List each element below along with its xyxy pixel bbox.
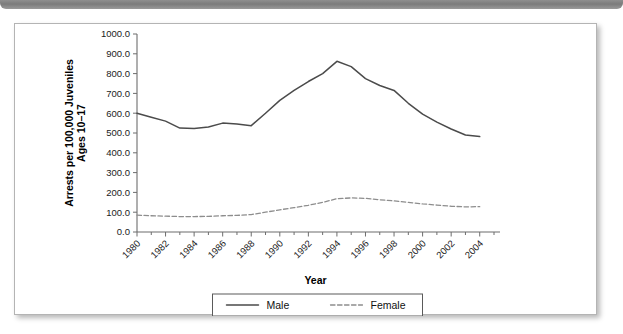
- x-axis-title: Year: [304, 274, 326, 286]
- data-series-group: [137, 61, 480, 216]
- y-tick-label: 1000.0: [101, 28, 130, 39]
- x-tick-label: 1986: [205, 238, 228, 261]
- y-tick-label: 300.0: [106, 167, 130, 178]
- y-tick-label: 900.0: [106, 48, 130, 59]
- x-tick-label: 2000: [405, 238, 428, 261]
- x-axis-ticks: 1980198219841986198819901992199419961998…: [120, 232, 494, 260]
- y-tick-label: 0.0: [117, 226, 130, 237]
- x-tick-label: 1996: [348, 238, 371, 261]
- y-axis-ticks: 0.0100.0200.0300.0400.0500.0600.0700.080…: [101, 28, 137, 237]
- y-tick-label: 100.0: [106, 207, 130, 218]
- y-tick-label: 200.0: [106, 187, 130, 198]
- x-tick-label: 1980: [120, 238, 143, 261]
- line-chart: Arrests per 100,000 Juveniles Ages 10–17…: [15, 24, 598, 316]
- y-tick-label: 800.0: [106, 68, 130, 79]
- y-axis-title-line-2: Ages 10–17: [75, 104, 87, 162]
- x-tick-label: 2002: [434, 238, 457, 261]
- x-tick-label: 1988: [234, 238, 257, 261]
- x-tick-label: 1998: [377, 238, 400, 261]
- y-tick-label: 400.0: [106, 147, 130, 158]
- x-tick-label: 2004: [462, 238, 485, 261]
- chart-container: Arrests per 100,000 Juveniles Ages 10–17…: [15, 24, 598, 316]
- x-tick-label: 1984: [177, 238, 200, 261]
- axis-lines: [137, 34, 500, 232]
- y-axis-title: Arrests per 100,000 Juveniles Ages 10–17: [63, 59, 87, 207]
- x-tick-label: 1982: [148, 238, 171, 261]
- x-tick-label: 1994: [320, 238, 343, 261]
- y-tick-label: 600.0: [106, 108, 130, 119]
- series-line-female: [137, 198, 480, 217]
- x-tick-label: 1992: [291, 238, 314, 261]
- y-tick-label: 500.0: [106, 127, 130, 138]
- y-axis-title-line-1: Arrests per 100,000 Juveniles: [63, 59, 75, 207]
- chart-legend: MaleFemale: [213, 294, 423, 316]
- decorative-top-bar: [0, 0, 623, 9]
- figure-panel: Arrests per 100,000 Juveniles Ages 10–17…: [14, 23, 597, 315]
- x-tick-label: 1990: [262, 238, 285, 261]
- y-tick-label: 700.0: [106, 88, 130, 99]
- legend-label-male: Male: [267, 299, 290, 311]
- legend-label-female: Female: [371, 299, 406, 311]
- series-line-male: [137, 61, 480, 136]
